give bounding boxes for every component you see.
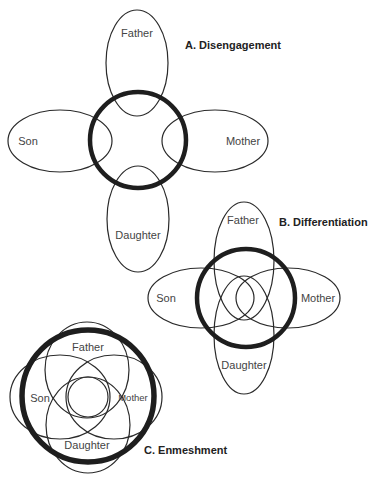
son-ellipse xyxy=(10,355,110,439)
panel-a-title: A. Disengagement xyxy=(185,39,281,51)
daughter-label: Daughter xyxy=(64,439,110,451)
panel-c-title: C. Enmeshment xyxy=(144,444,227,456)
family-boundary-circle xyxy=(90,92,186,188)
mother-label: Mother xyxy=(118,392,148,403)
father-label: Father xyxy=(121,27,153,39)
inner-overlap-circle xyxy=(68,377,108,417)
father-label: Father xyxy=(227,214,259,226)
daughter-label: Daughter xyxy=(115,229,161,241)
panel-c-enmeshment: Father Son Mother Daughter C. Enmeshment xyxy=(10,322,227,473)
family-boundaries-diagram: Father Son Mother Daughter A. Disengagem… xyxy=(0,0,374,483)
son-label: Son xyxy=(30,392,50,404)
mother-label: Mother xyxy=(301,292,336,304)
father-label: Father xyxy=(72,341,104,353)
panel-b-title: B. Differentiation xyxy=(279,216,368,228)
son-label: Son xyxy=(18,135,38,147)
panel-b-differentiation: Father Son Mother Daughter B. Differenti… xyxy=(148,202,368,394)
son-label: Son xyxy=(156,292,176,304)
mother-label: Mother xyxy=(226,135,261,147)
family-boundary-circle xyxy=(197,249,295,347)
daughter-label: Daughter xyxy=(221,359,267,371)
daughter-ellipse xyxy=(214,276,274,394)
panel-a-disengagement: Father Son Mother Daughter A. Disengagem… xyxy=(8,10,281,272)
